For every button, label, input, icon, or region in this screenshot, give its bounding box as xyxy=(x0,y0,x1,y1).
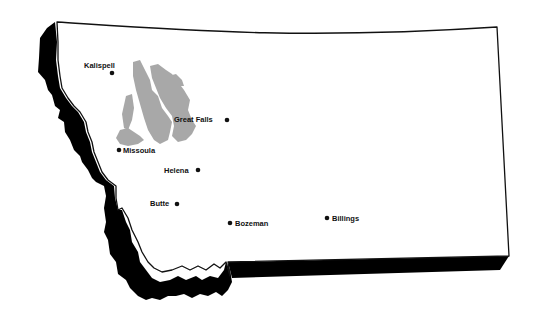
city-label-missoula: Missoula xyxy=(123,146,156,155)
city-label-bozeman: Bozeman xyxy=(235,219,269,228)
city-marker-bozeman xyxy=(228,221,233,226)
city-marker-missoula xyxy=(117,148,122,153)
city-label-helena: Helena xyxy=(164,166,189,175)
city-label-billings: Billings xyxy=(332,214,359,223)
city-label-great-falls: Great Falls xyxy=(174,115,213,124)
city-label-kalispell: Kalispell xyxy=(84,61,115,70)
city-marker-billings xyxy=(325,216,330,221)
city-marker-great-falls xyxy=(225,118,230,123)
city-marker-kalispell xyxy=(110,71,115,76)
montana-map: Kalispell Great Falls Missoula Helena Bu… xyxy=(0,0,539,327)
city-marker-helena xyxy=(196,168,201,173)
city-missoula[interactable]: Missoula xyxy=(117,146,156,155)
city-marker-butte xyxy=(175,202,180,207)
city-label-butte: Butte xyxy=(150,199,169,208)
